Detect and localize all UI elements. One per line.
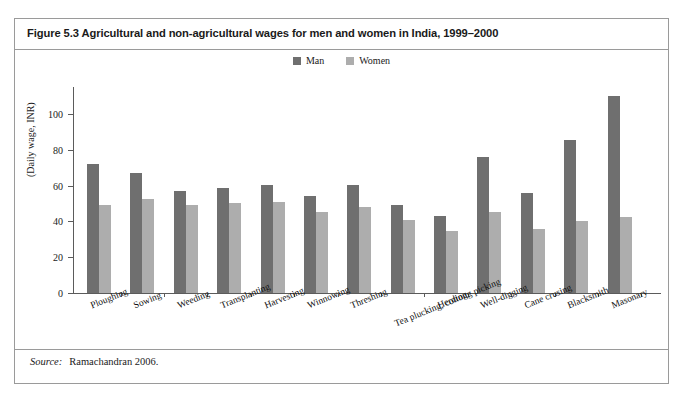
source-label: Source:	[30, 356, 62, 367]
legend-label: Man	[306, 55, 324, 66]
bar-group	[434, 87, 458, 293]
legend-item: Women	[346, 55, 390, 66]
bar-women	[446, 231, 458, 293]
legend-item: Man	[293, 55, 324, 66]
y-axis-tick	[68, 221, 73, 222]
bar-man	[477, 157, 489, 293]
bar-women	[273, 202, 285, 293]
y-axis-tick	[68, 150, 73, 151]
bar-women	[186, 205, 198, 293]
y-axis-tick-label: 0	[33, 288, 63, 299]
bar-women	[576, 221, 588, 293]
bar-man	[217, 188, 229, 293]
chart-legend: ManWomen	[15, 55, 668, 66]
bar-group	[87, 87, 111, 293]
source-text: Ramachandran 2006.	[69, 356, 158, 367]
bar-man	[261, 185, 273, 293]
bar-group	[217, 87, 241, 293]
bar-man	[304, 196, 316, 293]
source-divider	[15, 349, 668, 350]
bar-man	[130, 173, 142, 293]
y-axis-tick-label: 60	[33, 180, 63, 191]
bar-group	[304, 87, 328, 293]
y-axis-line	[73, 87, 74, 293]
bar-man	[391, 205, 403, 293]
legend-label: Women	[359, 55, 390, 66]
figure-container: Figure 5.3 Agricultural and non-agricult…	[14, 18, 669, 384]
bar-women	[533, 229, 545, 293]
bar-man	[174, 191, 186, 293]
chart-plot-area: (Daily wage, INR) 020406080100	[73, 87, 661, 293]
bar-women	[359, 207, 371, 293]
y-axis-tick	[68, 186, 73, 187]
bar-man	[87, 164, 99, 293]
y-axis-tick	[68, 114, 73, 115]
y-axis-tick	[68, 257, 73, 258]
bar-group	[261, 87, 285, 293]
bar-women	[229, 203, 241, 293]
x-axis-labels: PloughingSowingWeedingTransplantingHarve…	[73, 295, 673, 375]
bar-group	[608, 87, 632, 293]
bar-group	[564, 87, 588, 293]
bar-women	[403, 220, 415, 293]
bar-man	[521, 193, 533, 293]
bar-man	[434, 216, 446, 293]
bar-man	[564, 140, 576, 293]
legend-swatch-icon	[293, 57, 301, 65]
bar-women	[620, 217, 632, 293]
bar-group	[391, 87, 415, 293]
bar-women	[99, 205, 111, 293]
figure-title: Figure 5.3 Agricultural and non-agricult…	[27, 27, 498, 39]
bar-man	[347, 185, 359, 293]
bar-group	[130, 87, 154, 293]
y-axis-tick	[68, 293, 73, 294]
title-divider	[15, 49, 668, 50]
bar-women	[142, 199, 154, 293]
y-axis-tick-label: 80	[33, 144, 63, 155]
bar-group	[174, 87, 198, 293]
y-axis-tick-label: 100	[33, 108, 63, 119]
source-line: Source:Ramachandran 2006.	[30, 356, 159, 367]
bar-women	[316, 212, 328, 294]
y-axis-tick-label: 40	[33, 216, 63, 227]
bar-group	[521, 87, 545, 293]
y-axis-tick-label: 20	[33, 252, 63, 263]
bar-group	[477, 87, 501, 293]
bar-man	[608, 96, 620, 293]
legend-swatch-icon	[346, 57, 354, 65]
bar-group	[347, 87, 371, 293]
